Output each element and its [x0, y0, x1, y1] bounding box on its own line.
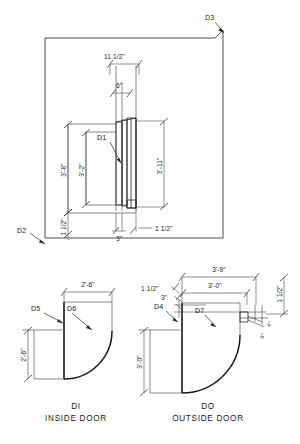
tag-d3: D3	[205, 13, 214, 22]
outside-frame-detail	[240, 305, 268, 327]
tag-d6: D6	[67, 304, 76, 313]
tag-d1: D1	[97, 133, 106, 142]
d1-leader	[110, 142, 121, 163]
d4-leader	[166, 311, 178, 322]
tag-d2: D2	[17, 226, 26, 235]
inside-door-code: DI	[71, 402, 81, 411]
d5-leader	[44, 313, 63, 323]
dim-inside-top	[61, 288, 115, 302]
dim-label-outside-top-inner: 3'-0"	[208, 282, 222, 289]
dim-label-inside-top: 2'-6"	[81, 281, 95, 288]
dim-label-top-inner: 6"	[116, 82, 123, 89]
dim-top-inner	[110, 89, 133, 97]
outside-door-label: OUTSIDE DOOR	[172, 414, 244, 423]
dim-label-left-outer: 3'-8"	[60, 163, 67, 177]
d6-leader	[72, 313, 92, 330]
dim-label-top-overall: 11 1/2"	[104, 53, 125, 60]
d7-leader	[205, 315, 216, 327]
elevation-group: D3 D2	[17, 13, 224, 244]
dim-label-bottom-right: 1 1/2"	[155, 225, 173, 232]
dim-label-bottom-left: 1 1/2"	[60, 218, 67, 236]
d3-leader	[215, 22, 224, 33]
dim-label-outside-right-a: 4"	[265, 320, 273, 327]
dim-label-left-inner: 3'-2"	[78, 163, 85, 177]
dim-label-outside-right-upper: 1 1/2"	[276, 285, 283, 303]
tag-d7: D7	[195, 306, 204, 315]
dim-label-right-overall: 3'-11"	[156, 157, 163, 174]
dim-outside-top-inner	[180, 289, 250, 305]
inside-door-label: INSIDE DOOR	[45, 414, 107, 423]
dim-label-outside-top-overall: 3'-9"	[212, 266, 226, 273]
dim-label-outside-left-upper: 1 1/2"	[141, 285, 159, 292]
dim-label-outside-left-small: 3"	[161, 294, 168, 301]
dim-label-bottom-center: 3"	[116, 235, 123, 242]
outside-door-code: DO	[201, 402, 215, 411]
dim-label-outside-right-b: 6"	[258, 332, 266, 339]
drawing-canvas: D3 D2	[0, 0, 300, 444]
tag-d4: D4	[154, 302, 163, 311]
dim-right-overall	[136, 118, 168, 210]
d2-leader	[30, 233, 45, 244]
dim-label-outside-left-height: 3'-0"	[136, 355, 143, 369]
outside-door-group: 3'-9" 3'-0" 1 1/2" 3"	[136, 266, 288, 423]
inside-door-group: 2'-6" 2'-6" D5 D6 DI INSIDE DOOR	[20, 281, 115, 423]
wall-panel-outline	[45, 30, 223, 238]
dim-top-overall	[107, 60, 142, 75]
dim-label-inside-left: 2'-6"	[20, 348, 27, 362]
drawing-sheet: D3 D2	[0, 0, 300, 444]
tag-d5: D5	[31, 304, 40, 313]
